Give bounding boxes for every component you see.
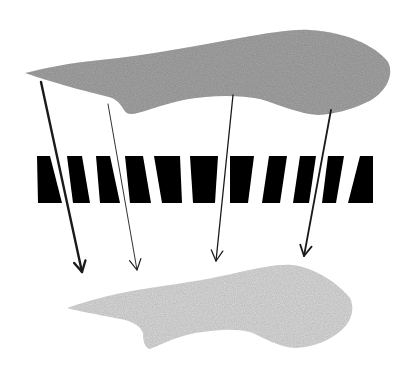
grating-bar: [262, 156, 287, 203]
grating-bar: [322, 156, 344, 203]
grating-bar: [67, 156, 90, 203]
grating-bar: [190, 156, 218, 203]
grating-bar: [154, 156, 182, 203]
grating-bar: [348, 156, 373, 203]
diagram-canvas: [0, 0, 411, 375]
projection-diagram: [0, 0, 411, 375]
projected-shape: [67, 265, 352, 349]
grating-bar: [230, 156, 254, 203]
grating-bar: [96, 156, 120, 203]
grating: [37, 156, 373, 203]
grating-bar: [293, 156, 316, 203]
source-shape: [25, 30, 390, 115]
grating-bar: [125, 156, 151, 203]
